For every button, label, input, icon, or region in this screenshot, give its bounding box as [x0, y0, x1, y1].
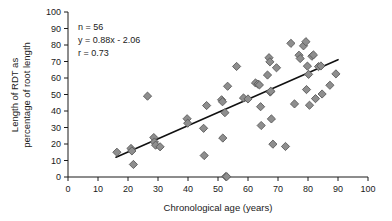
y-tick-label: 80: [51, 40, 61, 50]
y-tick-label: 20: [51, 139, 61, 149]
annotation-correlation: r = 0.73: [78, 48, 109, 58]
y-tick-label: 50: [51, 90, 61, 100]
x-tick-label: 10: [93, 184, 103, 194]
annotation-n: n = 56: [78, 22, 103, 32]
x-tick-label: 30: [153, 184, 163, 194]
y-axis-title-line2: percentage of root length: [21, 42, 32, 148]
y-tick-label: 40: [51, 106, 61, 116]
scatter-plot-figure: 0102030405060708090100 01020304050607080…: [0, 0, 392, 221]
x-tick-label: 90: [333, 184, 343, 194]
x-tick-label: 100: [360, 184, 375, 194]
x-tick-label: 60: [243, 184, 253, 194]
y-tick-label: 60: [51, 73, 61, 83]
y-axis-title-line1: Length of RDT as: [9, 58, 20, 133]
y-tick-label: 10: [51, 156, 61, 166]
y-tick-label: 70: [51, 57, 61, 67]
x-tick-label: 20: [123, 184, 133, 194]
x-axis-title: Chronological age (years): [164, 202, 273, 213]
y-tick-label: 90: [51, 24, 61, 34]
y-tick-label: 30: [51, 123, 61, 133]
y-tick-label: 0: [56, 172, 61, 182]
annotation-equation: y = 0.88x - 2.06: [78, 35, 140, 45]
x-tick-label: 0: [65, 184, 70, 194]
x-tick-label: 50: [213, 184, 223, 194]
x-tick-label: 40: [183, 184, 193, 194]
x-tick-label: 70: [273, 184, 283, 194]
x-tick-label: 80: [303, 184, 313, 194]
y-tick-label: 100: [46, 7, 61, 17]
